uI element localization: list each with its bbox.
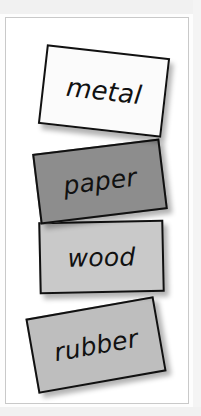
material-card-rubber[interactable]: rubber [25,296,166,393]
material-card-label: rubber [52,325,140,364]
bottom-edge-band [0,407,201,416]
material-card-wood[interactable]: wood [38,220,164,295]
material-cards-stage: metal paper wood rubber [0,0,201,416]
card-panel: metal paper wood rubber [5,17,189,404]
material-card-label: paper [62,165,138,199]
top-edge-band [0,0,201,14]
right-edge-band [193,0,201,416]
material-card-label: wood [67,244,135,270]
material-card-label: metal [65,74,143,108]
material-card-metal[interactable]: metal [38,44,170,138]
material-card-paper[interactable]: paper [32,138,168,224]
